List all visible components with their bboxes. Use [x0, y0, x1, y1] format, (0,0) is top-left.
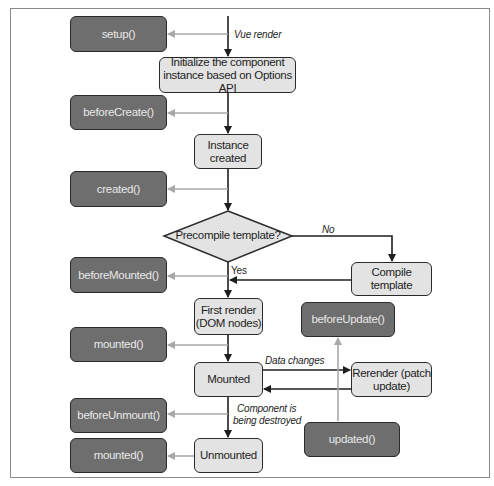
step-compile-template: Compile template: [351, 262, 432, 296]
edge-label-destroy-line1: Component is: [237, 403, 296, 414]
hook-setup: setup(): [70, 16, 167, 52]
hook-before-update: beforeUpdate(): [301, 302, 395, 337]
hook-updated-label: updated(): [329, 433, 376, 446]
step-mounted-label: Mounted: [207, 373, 250, 386]
step-rerender: Rerender (patch update): [351, 362, 432, 397]
step-first-render-line1: First render: [201, 304, 256, 317]
hook-before-unmount-label: beforeUnmount(): [77, 409, 159, 422]
hook-unmounted-label: mounted(): [94, 449, 144, 462]
step-instance-created: Instance created: [194, 134, 262, 169]
hook-unmounted: mounted(): [70, 438, 167, 473]
hook-updated: updated(): [304, 422, 400, 457]
decision-label: Precompile template?: [153, 229, 303, 241]
edge-label-yes: Yes: [231, 265, 247, 276]
step-instance-line2: created: [210, 152, 246, 165]
edge-label-no: No: [322, 224, 334, 235]
step-rerender-line2: update): [373, 380, 410, 393]
hook-before-create-label: beforeCreate(): [83, 106, 154, 119]
hook-before-update-label: beforeUpdate(): [311, 313, 384, 326]
hook-before-mounted-label: beforeMounted(): [78, 269, 159, 282]
hook-mounted-label: mounted(): [94, 338, 144, 351]
step-mounted: Mounted: [194, 362, 263, 397]
hook-created: created(): [70, 171, 167, 207]
step-first-render-line2: (DOM nodes): [196, 317, 262, 330]
step-unmounted: Unmounted: [194, 438, 263, 473]
hook-mounted: mounted(): [70, 327, 167, 362]
step-initialize-line1: Initialize the component: [171, 56, 285, 69]
step-instance-line1: Instance: [207, 139, 248, 152]
step-initialize: Initialize the component instance based …: [159, 57, 296, 93]
hook-before-unmount: beforeUnmount(): [70, 398, 167, 433]
edge-label-vue-render: Vue render: [234, 29, 281, 40]
hook-setup-label: setup(): [102, 28, 136, 41]
hook-created-label: created(): [97, 183, 140, 196]
step-first-render: First render (DOM nodes): [194, 298, 263, 335]
edge-label-data-changes: Data changes: [265, 355, 324, 366]
hook-before-create: beforeCreate(): [70, 95, 167, 130]
edge-label-destroy-line2: being destroyed: [233, 415, 301, 426]
step-compile-label: Compile template: [352, 266, 431, 292]
step-initialize-line2: instance based on Options API: [160, 69, 295, 95]
hook-before-mounted: beforeMounted(): [70, 257, 167, 293]
step-unmounted-label: Unmounted: [200, 449, 257, 462]
step-rerender-line1: Rerender (patch: [352, 367, 431, 380]
